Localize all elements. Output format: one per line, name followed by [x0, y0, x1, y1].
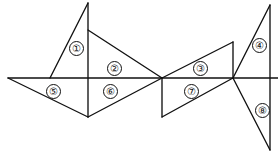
- figure-line-group: [8, 3, 278, 150]
- label-6: ⑥: [103, 84, 118, 99]
- region2-upper-edge: [88, 30, 162, 78]
- label-2: ②: [107, 61, 122, 76]
- figure-canvas: [0, 0, 278, 157]
- label-8: ⑧: [255, 103, 270, 118]
- geometry-figure: ①②③④⑤⑥⑦⑧: [0, 0, 278, 157]
- label-4: ④: [252, 38, 267, 53]
- label-7: ⑦: [184, 84, 199, 99]
- label-1: ①: [69, 41, 84, 56]
- label-3: ③: [193, 61, 208, 76]
- label-5: ⑤: [46, 84, 61, 99]
- left-peak-diagonal: [50, 3, 88, 78]
- region7-lower-edge: [162, 78, 233, 117]
- region6-lower-edge: [88, 78, 162, 117]
